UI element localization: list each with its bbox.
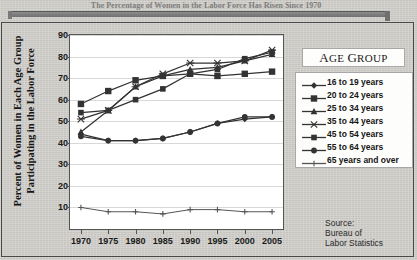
source-note: Source: Bureau of Labor Statistics bbox=[325, 218, 415, 248]
data-point-marker bbox=[187, 71, 193, 77]
legend-item-1[interactable]: 16 to 19 years bbox=[296, 76, 412, 89]
data-point-marker bbox=[311, 161, 317, 167]
x-tick-mark bbox=[136, 230, 137, 234]
data-point-marker bbox=[132, 77, 138, 83]
series-2 bbox=[78, 68, 276, 107]
legend-marker-icon bbox=[301, 142, 327, 153]
line-chart: Percent of Women in Each Age Group Parti… bbox=[0, 22, 417, 257]
data-point-marker bbox=[105, 209, 111, 215]
series-7 bbox=[78, 205, 275, 217]
legend-title: AGE GROUP bbox=[303, 49, 404, 67]
y-axis-ticks: 102030405060708090 bbox=[40, 34, 68, 230]
data-point-marker bbox=[215, 120, 221, 126]
data-point-marker bbox=[133, 138, 139, 144]
data-point-marker bbox=[269, 114, 275, 120]
data-point-marker bbox=[242, 209, 248, 215]
data-point-marker bbox=[269, 49, 275, 55]
legend-item-label: 45 to 54 years bbox=[327, 129, 383, 140]
y-tick-label: 10 bbox=[44, 203, 68, 212]
data-point-marker bbox=[187, 207, 193, 213]
series-6 bbox=[78, 114, 275, 144]
source-line-3: Labor Statistics bbox=[325, 238, 415, 248]
data-point-marker bbox=[105, 88, 111, 94]
data-point-marker bbox=[160, 136, 166, 142]
data-point-marker bbox=[160, 86, 166, 92]
data-point-marker bbox=[133, 97, 139, 103]
data-point-marker bbox=[269, 68, 275, 74]
legend-marker-icon bbox=[301, 103, 327, 114]
x-tick-label: 2005 bbox=[256, 236, 288, 246]
data-point-marker bbox=[77, 116, 85, 122]
legend-marker-icon bbox=[301, 90, 327, 101]
data-point-marker bbox=[78, 205, 84, 211]
data-point-marker bbox=[133, 209, 139, 215]
data-point-marker bbox=[215, 207, 221, 213]
data-point-marker bbox=[214, 73, 220, 79]
data-point-marker bbox=[186, 60, 194, 66]
legend-item-6[interactable]: 55 to 64 years bbox=[296, 141, 412, 154]
y-tick-label: 30 bbox=[44, 160, 68, 169]
series-layer bbox=[70, 35, 283, 229]
legend-marker-icon bbox=[301, 77, 327, 88]
data-point-marker bbox=[215, 67, 221, 73]
data-point-marker bbox=[310, 121, 318, 127]
data-point-marker bbox=[187, 129, 193, 135]
x-tick-mark bbox=[217, 230, 218, 234]
legend-item-5[interactable]: 45 to 54 years bbox=[296, 128, 412, 141]
plot-area bbox=[69, 34, 284, 230]
source-line-1: Source: bbox=[325, 218, 415, 228]
legend-item-label: 55 to 64 years bbox=[327, 142, 383, 153]
data-point-marker bbox=[78, 133, 84, 139]
data-point-marker bbox=[242, 114, 248, 120]
x-tick-mark bbox=[272, 230, 273, 234]
legend-title-box: AGE GROUP bbox=[302, 48, 405, 67]
data-point-marker bbox=[78, 110, 84, 116]
legend-item-4[interactable]: 35 to 44 years bbox=[296, 115, 412, 128]
data-point-marker bbox=[105, 138, 111, 144]
legend-item-2[interactable]: 20 to 24 years bbox=[296, 89, 412, 102]
x-tick-mark bbox=[190, 230, 191, 234]
legend-item-7[interactable]: 65 years and over bbox=[296, 154, 412, 167]
data-point-marker bbox=[311, 148, 317, 154]
legend-marker-icon bbox=[301, 129, 327, 140]
legend-item-label: 20 to 24 years bbox=[327, 90, 383, 101]
data-point-marker bbox=[311, 95, 317, 101]
legend-marker-icon bbox=[301, 116, 327, 127]
data-point-marker bbox=[242, 56, 248, 62]
y-tick-label: 70 bbox=[44, 74, 68, 83]
data-point-marker bbox=[242, 71, 248, 77]
x-tick-mark bbox=[108, 230, 109, 234]
x-tick-mark bbox=[245, 230, 246, 234]
y-axis-title: Percent of Women in Each Age Group Parti… bbox=[11, 25, 37, 217]
legend-item-label: 35 to 44 years bbox=[327, 116, 383, 127]
decorative-top-bar bbox=[12, 11, 385, 17]
decorative-top-bar-shadow bbox=[385, 11, 390, 21]
data-point-marker bbox=[269, 209, 275, 215]
y-tick-label: 60 bbox=[44, 96, 68, 105]
data-point-marker bbox=[78, 101, 84, 107]
legend-item-3[interactable]: 25 to 34 years bbox=[296, 102, 412, 115]
source-line-2: Bureau of bbox=[325, 228, 415, 238]
legend-marker-icon bbox=[301, 155, 327, 166]
series-line bbox=[81, 207, 272, 213]
x-tick-mark bbox=[81, 230, 82, 234]
data-point-marker bbox=[311, 82, 317, 88]
series-5 bbox=[78, 49, 275, 115]
y-tick-label: 90 bbox=[44, 31, 68, 40]
data-point-marker bbox=[311, 135, 317, 141]
legend-item-label: 65 years and over bbox=[327, 155, 399, 166]
data-point-marker bbox=[160, 211, 166, 217]
legend-item-label: 25 to 34 years bbox=[327, 103, 383, 114]
y-tick-label: 50 bbox=[44, 117, 68, 126]
data-point-marker bbox=[105, 108, 111, 114]
x-tick-mark bbox=[163, 230, 164, 234]
legend-item-label: 16 to 19 years bbox=[327, 77, 383, 88]
y-tick-label: 20 bbox=[44, 182, 68, 191]
x-axis-ticks: 19701975198019851990199520002005 bbox=[69, 230, 284, 236]
y-tick-label: 80 bbox=[44, 53, 68, 62]
legend: 16 to 19 years20 to 24 years25 to 34 yea… bbox=[295, 72, 413, 168]
y-tick-label: 40 bbox=[44, 139, 68, 148]
